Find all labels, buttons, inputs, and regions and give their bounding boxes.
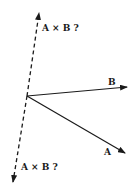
label-cross-down: A × B ?	[20, 162, 58, 172]
vector-diagram: A × B ? A × B ? B A	[0, 0, 133, 193]
cross-product-up-dashed-line	[27, 13, 39, 96]
vector-a-arrow	[27, 96, 125, 153]
vector-b-arrow	[27, 87, 127, 96]
label-vector-b: B	[108, 77, 116, 87]
label-vector-a: A	[103, 147, 112, 157]
label-cross-up: A × B ?	[41, 23, 79, 33]
